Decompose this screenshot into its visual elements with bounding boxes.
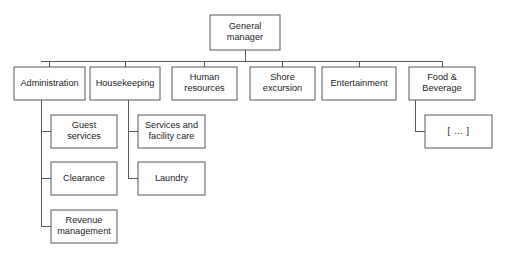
node-food-and-beverage[interactable]: Food &Beverage — [409, 67, 475, 100]
node-label-administration: Administration — [20, 78, 78, 88]
node-guest-services[interactable]: Guestservices — [51, 115, 117, 148]
node-clearance[interactable]: Clearance — [51, 162, 117, 195]
node-laundry[interactable]: Laundry — [138, 162, 205, 195]
node-human-resources[interactable]: Humanresources — [172, 67, 237, 100]
node-housekeeping[interactable]: Housekeeping — [90, 67, 160, 100]
node-general-manager[interactable]: Generalmanager — [210, 15, 280, 50]
node-administration[interactable]: Administration — [14, 67, 85, 100]
node-label-housekeeping: Housekeeping — [96, 78, 155, 88]
node-services-and-facility-care[interactable]: Services andfacility care — [138, 115, 205, 148]
node-food-beverage-more[interactable]: [ … ] — [425, 115, 492, 148]
node-entertainment[interactable]: Entertainment — [322, 67, 396, 100]
node-layer: GeneralmanagerAdministrationHousekeeping… — [14, 15, 492, 243]
org-chart-canvas: GeneralmanagerAdministrationHousekeeping… — [0, 0, 505, 257]
node-label-general-manager: Generalmanager — [227, 21, 263, 42]
node-label-clearance: Clearance — [63, 173, 105, 183]
node-revenue-management[interactable]: Revenuemanagement — [51, 210, 117, 243]
node-label-guest-services: Guestservices — [67, 120, 101, 141]
node-label-human-resources: Humanresources — [184, 72, 225, 93]
node-label-food-beverage-more: [ … ] — [448, 126, 470, 136]
node-label-food-and-beverage: Food &Beverage — [422, 72, 461, 93]
node-label-laundry: Laundry — [155, 173, 189, 183]
node-shore-excursion[interactable]: Shoreexcursion — [250, 67, 315, 100]
node-label-entertainment: Entertainment — [330, 78, 388, 88]
node-label-services-and-facility-care: Services andfacility care — [145, 120, 198, 141]
org-chart-svg: GeneralmanagerAdministrationHousekeeping… — [0, 0, 505, 257]
